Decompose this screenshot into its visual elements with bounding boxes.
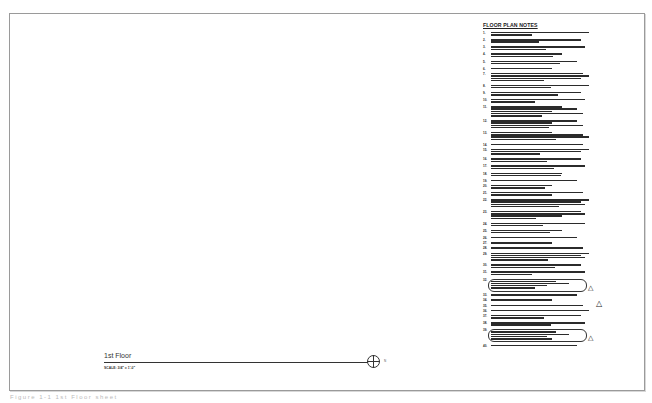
note-item: 24. (483, 223, 593, 228)
note-text (491, 237, 593, 240)
note-text (491, 192, 593, 197)
note-item: 34. (483, 299, 593, 302)
note-text (491, 61, 593, 66)
note-item: 12. (483, 120, 593, 129)
note-item: 33. (483, 294, 593, 297)
note-number: 37. (483, 315, 491, 320)
note-item: 28. (483, 247, 593, 250)
note-number: 24. (483, 223, 491, 228)
note-item: 8. (483, 85, 593, 90)
note-item: 11. (483, 106, 593, 117)
note-text (491, 299, 593, 302)
note-number: 3. (483, 46, 491, 51)
note-number: 15. (483, 149, 491, 156)
note-item: 31. (483, 271, 593, 276)
note-number: 18. (483, 173, 491, 178)
note-text (491, 230, 593, 235)
note-number: 31. (483, 271, 491, 276)
note-text (491, 242, 593, 245)
note-text (491, 199, 593, 208)
note-number: 27. (483, 242, 491, 245)
note-text (491, 144, 593, 147)
note-number: 8. (483, 85, 491, 90)
note-item: 1. (483, 32, 593, 37)
note-item: 13. (483, 132, 593, 141)
note-number: 28. (483, 247, 491, 250)
note-text (491, 223, 593, 228)
notes-title: FLOOR PLAN NOTES (483, 22, 593, 28)
note-text (491, 106, 593, 117)
note-text (491, 294, 593, 297)
note-item: 15. (483, 149, 593, 156)
note-number: 21. (483, 192, 491, 197)
note-item: 32.△ (483, 279, 593, 292)
note-item: 4. (483, 53, 593, 58)
note-item: 6. (483, 68, 593, 71)
note-number: 16. (483, 158, 491, 163)
note-item: 21. (483, 192, 593, 197)
note-text (491, 46, 593, 51)
note-text (491, 271, 593, 276)
floor-plan-notes: FLOOR PLAN NOTES 1.2.3.4.5.6.7.8.9.10.11… (483, 22, 593, 350)
revision-delta-icon: △ (588, 284, 593, 292)
note-number: 34. (483, 299, 491, 302)
note-number: 20. (483, 185, 491, 190)
note-number: 2. (483, 39, 491, 44)
note-item: 18. (483, 173, 593, 178)
note-number: 6. (483, 68, 491, 71)
note-text (491, 85, 593, 90)
note-number: 36. (483, 310, 491, 313)
note-number: 17. (483, 165, 491, 170)
note-text (491, 53, 593, 58)
note-number: 40. (483, 345, 491, 348)
note-item: 35. (483, 305, 593, 308)
note-item: 40. (483, 345, 593, 348)
note-item: 23. (483, 211, 593, 220)
note-text (491, 149, 593, 156)
note-number: 26. (483, 237, 491, 240)
note-text (491, 39, 593, 44)
note-item: 16. (483, 158, 593, 163)
note-item: 2. (483, 39, 593, 44)
note-text (491, 165, 593, 170)
view-title-underline (104, 362, 368, 363)
note-number: 11. (483, 106, 491, 117)
note-text (491, 211, 593, 220)
note-number: 4. (483, 53, 491, 58)
note-text (491, 92, 593, 97)
note-number: 7. (483, 73, 491, 82)
revision-cloud (488, 329, 587, 342)
note-item: 27. (483, 242, 593, 245)
revision-delta-icon: △ (588, 334, 593, 342)
note-number: 14. (483, 144, 491, 147)
note-item: 22. (483, 199, 593, 208)
note-text (491, 264, 593, 269)
note-text (491, 305, 593, 308)
revision-cloud (488, 279, 587, 292)
note-number: 22. (483, 199, 491, 208)
note-item: 20. (483, 185, 593, 190)
note-number: 38. (483, 322, 491, 327)
note-text (491, 180, 593, 183)
note-text (491, 158, 593, 163)
note-number: 19. (483, 180, 491, 183)
figure-caption: Figure 1-1 1st Floor sheet (10, 394, 118, 400)
note-number: 10. (483, 99, 491, 104)
revision-delta-icon: △ (596, 300, 602, 308)
note-text (491, 185, 593, 190)
note-text (491, 345, 593, 348)
note-number: 35. (483, 305, 491, 308)
note-number: 33. (483, 294, 491, 297)
note-text (491, 322, 593, 327)
view-title: 1st Floor (104, 352, 131, 359)
note-item: 5. (483, 61, 593, 66)
note-item: 19. (483, 180, 593, 183)
note-text (491, 99, 593, 104)
north-label: N (384, 359, 386, 363)
note-item: 26. (483, 237, 593, 240)
note-text (491, 173, 593, 178)
note-text (491, 120, 593, 129)
note-number: 25. (483, 230, 491, 235)
note-text (491, 73, 593, 82)
note-text (491, 315, 593, 320)
